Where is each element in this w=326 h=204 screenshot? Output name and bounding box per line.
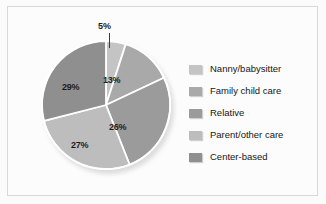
pie-chart-figure: 13% 26% 27% 29% 5% Nanny/babysitter Fami… xyxy=(0,0,326,204)
legend-item-center-based[interactable]: Center-based xyxy=(189,150,315,164)
legend-item-nanny-babysitter[interactable]: Nanny/babysitter xyxy=(189,62,315,76)
legend-item-label: Parent/other care xyxy=(210,130,283,140)
legend-swatch-icon xyxy=(189,65,202,74)
legend: Nanny/babysitter Family child care Relat… xyxy=(189,62,315,164)
slice-value-parent-other-care: 27% xyxy=(71,141,88,150)
legend-item-label: Family child care xyxy=(210,86,281,96)
legend-swatch-icon xyxy=(189,109,202,118)
slice-value-family-child-care: 13% xyxy=(103,76,120,85)
slice-value-nanny-babysitter: 5% xyxy=(98,22,111,31)
legend-item-label: Nanny/babysitter xyxy=(210,64,281,74)
legend-item-parent-other-care[interactable]: Parent/other care xyxy=(189,128,315,142)
pie-slices xyxy=(41,40,171,170)
legend-item-label: Relative xyxy=(210,108,244,118)
callout-leader-line xyxy=(109,33,110,48)
legend-item-family-child-care[interactable]: Family child care xyxy=(189,84,315,98)
legend-item-relative[interactable]: Relative xyxy=(189,106,315,120)
slice-value-center-based: 29% xyxy=(62,83,79,92)
legend-item-label: Center-based xyxy=(210,152,268,162)
legend-swatch-icon xyxy=(189,131,202,140)
legend-swatch-icon xyxy=(189,153,202,162)
pie-chart: 13% 26% 27% 29% xyxy=(41,40,171,170)
slice-value-relative: 26% xyxy=(109,123,126,132)
legend-swatch-icon xyxy=(189,87,202,96)
